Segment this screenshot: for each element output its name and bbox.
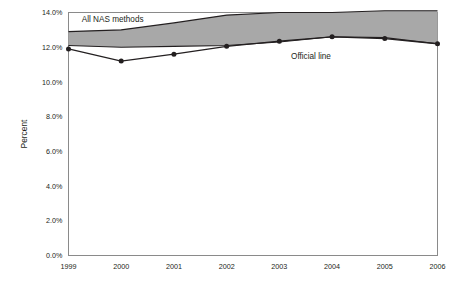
percent-trend-chart: 0.0%2.0%4.0%6.0%8.0%10.0%12.0%14.0% 1999… — [0, 0, 459, 292]
x-tick-label: 2003 — [271, 262, 287, 271]
x-tick-label: 2006 — [430, 262, 446, 271]
data-point-marker — [382, 36, 387, 41]
x-tick-label: 2000 — [113, 262, 129, 271]
chart-container: 0.0%2.0%4.0%6.0%8.0%10.0%12.0%14.0% 1999… — [0, 0, 459, 292]
y-tick-label: 8.0% — [46, 112, 63, 121]
y-tick-label: 12.0% — [42, 43, 63, 52]
x-tick-label: 2001 — [166, 262, 182, 271]
data-point-marker — [224, 44, 229, 49]
data-point-marker — [435, 41, 440, 46]
y-tick-label: 4.0% — [46, 182, 63, 191]
data-point-marker — [119, 59, 124, 64]
plot-area-frame — [69, 13, 438, 256]
y-tick-label: 0.0% — [46, 251, 63, 260]
data-point-marker — [66, 46, 71, 51]
x-tick-label: 1999 — [61, 262, 77, 271]
x-tick-label: 2005 — [377, 262, 393, 271]
series-annotation-label: All NAS methods — [82, 15, 144, 24]
y-axis-title: Percent — [19, 119, 29, 149]
data-point-marker — [171, 52, 176, 57]
data-point-marker — [330, 34, 335, 39]
y-tick-label: 14.0% — [42, 8, 63, 17]
x-tick-label: 2004 — [324, 262, 340, 271]
y-tick-label: 6.0% — [46, 147, 63, 156]
series-annotation-label: Official line — [291, 52, 331, 61]
x-tick-label: 2002 — [219, 262, 235, 271]
y-tick-label: 10.0% — [42, 78, 63, 87]
y-tick-label: 2.0% — [46, 216, 63, 225]
data-point-marker — [277, 39, 282, 44]
